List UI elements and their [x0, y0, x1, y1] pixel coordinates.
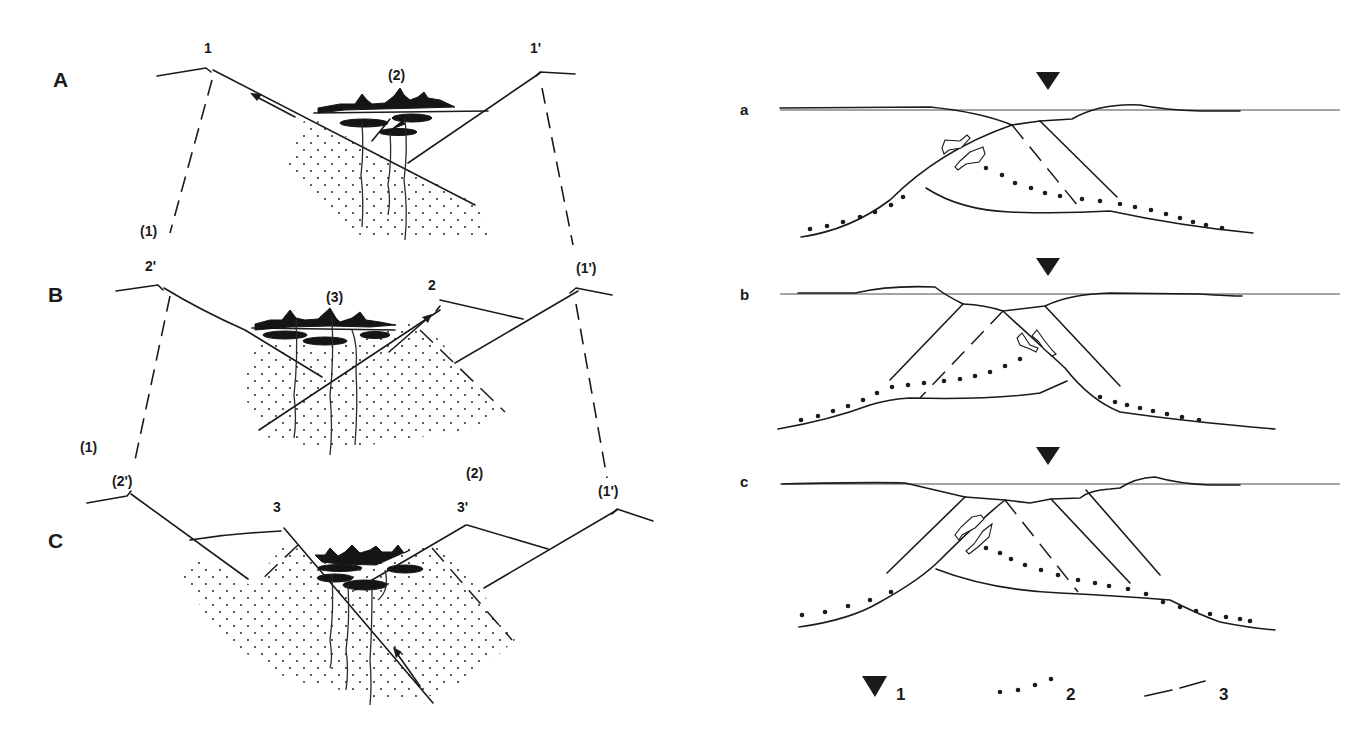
geologic-cross-section-figure: A 1 1' (2) B (1) 2'	[0, 0, 1355, 735]
surface-left	[87, 491, 131, 503]
main-thrust	[801, 125, 1012, 237]
ore-body	[318, 88, 455, 113]
slip-arrow	[255, 96, 295, 117]
correlation-line-1-prime	[542, 88, 573, 245]
volcanic-vent-triangle-icon	[1036, 258, 1060, 276]
panel-label-b: b	[740, 286, 749, 303]
base-contact	[926, 188, 1253, 233]
ore-lens	[387, 565, 423, 573]
point-label-1-prime-paren: (1')	[576, 260, 596, 276]
panel-c: c	[740, 447, 1340, 630]
surface-left	[782, 483, 965, 497]
point-label-2-prime-paren: (2')	[112, 473, 132, 489]
base-contact	[778, 381, 1067, 429]
correlation-line-1	[170, 80, 212, 233]
ore-body	[255, 308, 395, 330]
panel-C: C (1) (2') 3 (2) 3' (1')	[48, 439, 653, 705]
fault-1-prime	[455, 291, 578, 363]
correlation-line-1-prime	[576, 304, 607, 478]
main-thrust	[1003, 311, 1275, 429]
panel-a: a	[740, 72, 1340, 237]
point-label-1-paren: (1)	[140, 223, 157, 239]
dotted-line-level	[799, 357, 1202, 423]
ore-stage-label-2: (2)	[388, 67, 405, 83]
legend-dash-icon	[1145, 690, 1172, 696]
arrow-head	[250, 93, 262, 101]
point-label-1-prime: 1'	[530, 40, 541, 56]
fault-right	[1040, 121, 1117, 197]
volcanic-vent-triangle-icon	[1036, 72, 1060, 90]
correlation-line-2-prime	[135, 296, 170, 460]
surface-left	[116, 285, 163, 291]
panel-label-c: c	[740, 473, 748, 490]
point-label-3: 3	[273, 499, 281, 515]
panel-A: A 1 1' (2)	[53, 40, 575, 245]
legend-label-2: 2	[1066, 685, 1075, 704]
surface-left	[798, 287, 963, 304]
dotted-line-level	[800, 546, 1253, 624]
surface-right	[1040, 105, 1240, 121]
panel-label-A: A	[53, 68, 68, 91]
ore-lens	[317, 574, 353, 582]
fault-left	[890, 304, 963, 380]
ore-lens	[343, 580, 387, 590]
ore-lens	[340, 119, 388, 127]
legend-label-1: 1	[896, 685, 905, 704]
surface-right	[965, 477, 1240, 503]
fault-left	[887, 497, 965, 573]
fault-right-2	[1086, 490, 1160, 575]
ore-lens	[318, 565, 362, 572]
projected-fault	[1005, 500, 1078, 592]
ore-lens	[379, 129, 417, 136]
volcanic-vent-triangle-icon	[1036, 447, 1060, 465]
legend: 1 2 3	[862, 676, 1228, 704]
ore-lens	[360, 332, 390, 339]
point-label-1-prime-paren: (1')	[598, 483, 618, 499]
ore-stage-label-3: (3)	[326, 289, 343, 305]
base-contact	[936, 569, 1275, 630]
ore-lens	[303, 337, 347, 345]
fault-right	[1045, 306, 1120, 386]
shear-arrow-down-icon	[955, 147, 985, 170]
fault-1-prime	[484, 510, 617, 588]
block-top	[440, 300, 523, 319]
point-label-2-paren: (2)	[466, 465, 483, 481]
ore-lens	[392, 121, 405, 129]
block-top	[467, 525, 548, 549]
panel-label-B: B	[48, 283, 63, 306]
panel-label-C: C	[48, 529, 63, 552]
panel-label-a: a	[740, 101, 749, 118]
point-label-2-prime: 2'	[145, 258, 156, 274]
legend-label-3: 3	[1219, 685, 1228, 704]
projected-fault	[920, 311, 1003, 398]
surface-right	[963, 293, 1242, 311]
surface-wavy	[190, 531, 281, 540]
surface-right	[536, 72, 575, 76]
legend-dotted-line-icon	[998, 677, 1054, 695]
fault-right-1	[1051, 499, 1130, 583]
surface-right	[612, 509, 653, 521]
point-label-3-prime: 3'	[457, 499, 468, 515]
point-label-1-paren: (1)	[80, 439, 97, 455]
point-label-2: 2	[428, 277, 436, 293]
legend-triangle-icon	[862, 676, 887, 697]
crest	[1012, 121, 1040, 125]
basin-floor	[314, 111, 488, 113]
point-label-1: 1	[204, 40, 212, 56]
surface-left	[157, 68, 211, 76]
legend-dash-icon	[1180, 681, 1205, 688]
panel-b: b	[740, 258, 1340, 429]
panel-B: B (1) 2' 2 (1') (3)	[48, 223, 612, 478]
ore-lens	[392, 114, 432, 122]
ore-lens	[263, 331, 307, 339]
